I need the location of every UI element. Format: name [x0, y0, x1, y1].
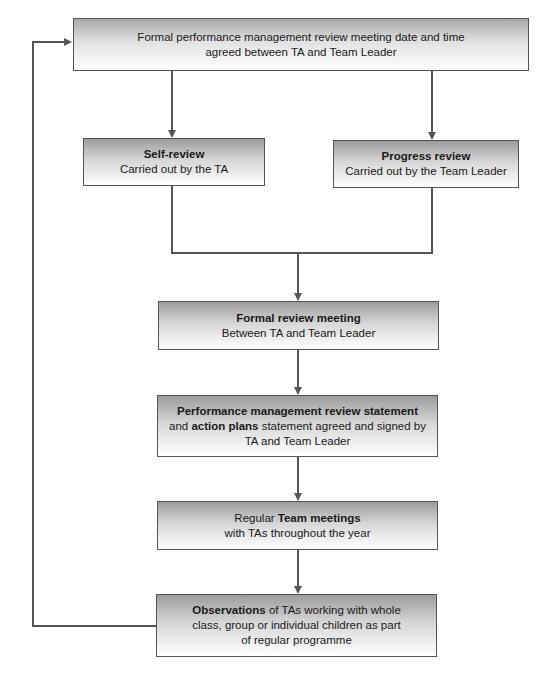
node-text-line3: of regular programme — [241, 633, 352, 648]
node-text-line1: Performance management review statement — [177, 404, 418, 419]
connector-progress-review-down — [431, 188, 433, 253]
arrowhead-feedback-to-start — [64, 38, 72, 46]
node-title: Self-review — [144, 147, 205, 162]
node-subtitle: Carried out by the Team Leader — [345, 164, 507, 179]
node-title: Progress review — [382, 149, 471, 164]
node-title: Formal review meeting — [236, 311, 361, 326]
node-review-statement-action-plans: Performance management review statement … — [157, 395, 438, 457]
connector-feedback-horizontal-bottom — [32, 625, 156, 627]
connector-start-to-self-review — [171, 71, 173, 130]
node-formal-review-meeting: Formal review meeting Between TA and Tea… — [158, 301, 439, 350]
connector-feedback-vertical — [32, 41, 34, 626]
connector-formal-meeting-to-statement — [297, 350, 299, 387]
node-meeting-date-agreed: Formal performance management review mee… — [73, 18, 529, 71]
connector-self-review-down — [171, 186, 173, 252]
node-progress-review: Progress review Carried out by the Team … — [333, 140, 519, 188]
node-text-line1: Formal performance management review mee… — [137, 30, 464, 45]
text-segment-bold: Observations — [192, 604, 266, 616]
text-segment: statement agreed and signed by — [258, 420, 426, 432]
arrowhead-self-review — [168, 130, 176, 138]
text-segment: of TAs working with whole — [266, 604, 401, 616]
text-segment: and — [169, 420, 191, 432]
connector-team-meetings-to-observations — [297, 550, 299, 586]
node-text-line3: TA and Team Leader — [245, 434, 351, 449]
node-text-line2: with TAs throughout the year — [225, 526, 371, 541]
text-segment-bold: Team meetings — [278, 512, 361, 524]
arrowhead-team-meetings — [294, 493, 302, 501]
node-text-line1: Regular Team meetings — [234, 511, 360, 526]
node-text-line2: agreed between TA and Team Leader — [205, 45, 396, 60]
arrowhead-progress-review — [428, 132, 436, 140]
node-observations: Observations of TAs working with whole c… — [156, 594, 437, 657]
node-subtitle: Between TA and Team Leader — [222, 326, 375, 341]
arrowhead-formal-meeting — [294, 293, 302, 301]
node-subtitle: Carried out by the TA — [120, 162, 228, 177]
connector-start-to-progress-review — [431, 71, 433, 132]
connector-merge-horizontal — [171, 252, 433, 254]
connector-statement-to-team-meetings — [297, 457, 299, 493]
node-text-line2: and action plans statement agreed and si… — [169, 419, 426, 434]
node-text-line2: class, group or individual children as p… — [192, 618, 400, 633]
text-segment-bold: action plans — [191, 420, 258, 432]
connector-merge-to-formal-meeting — [297, 253, 299, 293]
connector-feedback-horizontal-top — [32, 41, 65, 43]
text-segment: Regular — [234, 512, 277, 524]
node-text-line1: Observations of TAs working with whole — [192, 603, 401, 618]
node-team-meetings: Regular Team meetings with TAs throughou… — [157, 501, 438, 550]
node-self-review: Self-review Carried out by the TA — [83, 138, 265, 186]
arrowhead-observations — [294, 586, 302, 594]
arrowhead-statement — [294, 387, 302, 395]
